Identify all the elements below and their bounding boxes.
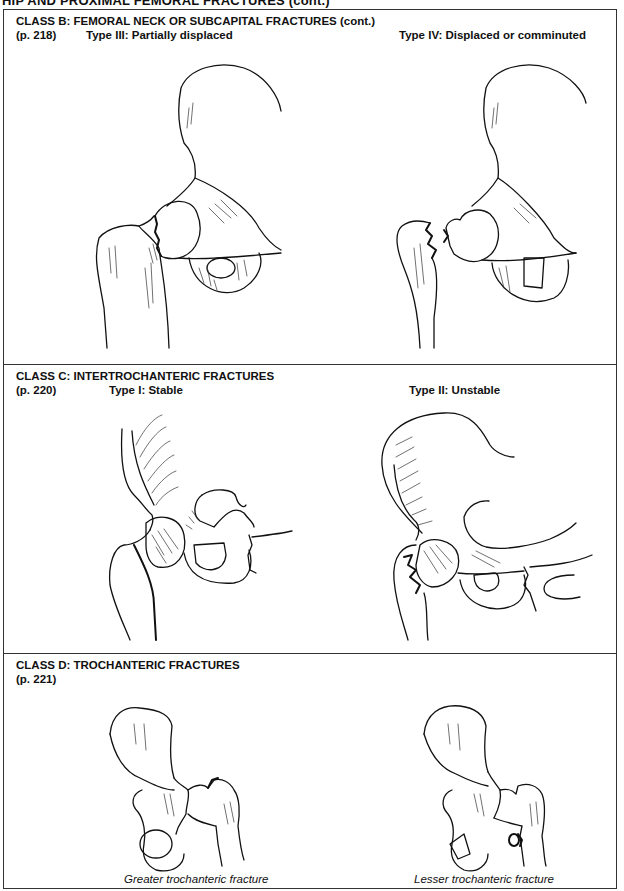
lesser-trochanter-fragment [509, 834, 519, 846]
hip-lesser-trochanteric-fracture-illustration [404, 694, 604, 874]
class-title: CLASS C: INTERTROCHANTERIC FRACTURES [16, 370, 274, 382]
figure-label: Type II: Unstable [409, 384, 500, 396]
obturator-foramen [474, 573, 499, 591]
ilium-outline [382, 413, 514, 533]
fracture-line [426, 223, 436, 258]
class-title: CLASS B: FEMORAL NECK OR SUBCAPITAL FRAC… [16, 15, 375, 27]
fracture-line [155, 216, 161, 256]
ilium-outline [110, 708, 174, 778]
figure-caption: Greater trochanteric fracture [124, 873, 268, 885]
femur-outline [110, 530, 150, 640]
figure-label: Type IV: Displaced or comminuted [399, 29, 586, 41]
pelvic-ring [184, 550, 251, 583]
running-head: HIP AND PROXIMAL FEMORAL FRACTURES (cont… [2, 0, 330, 8]
femoral-head [446, 210, 498, 262]
obturator-foramen [524, 258, 544, 288]
figure-frame: CLASS B: FEMORAL NECK OR SUBCAPITAL FRAC… [3, 9, 617, 889]
obturator-foramen [207, 258, 235, 278]
panel-class-c: CLASS C: INTERTROCHANTERIC FRACTURES (p.… [4, 364, 616, 653]
page-reference: (p. 220) [16, 384, 56, 396]
obturator-foramen [140, 830, 172, 858]
page-reference: (p. 218) [16, 29, 56, 41]
figure-label: Type III: Partially displaced [86, 29, 233, 41]
panel-class-d: CLASS D: TROCHANTERIC FRACTURES (p. 221) [4, 653, 616, 889]
fracture-line [208, 778, 218, 788]
ilium-outline [472, 65, 586, 206]
femoral-head [155, 201, 200, 258]
figure-caption: Lesser trochanteric fracture [414, 873, 554, 885]
class-title: CLASS D: TROCHANTERIC FRACTURES [16, 659, 240, 671]
hip-greater-trochanteric-fracture-illustration [104, 694, 304, 874]
hip-intertrochanteric-stable-illustration [84, 405, 314, 645]
hip-femoral-neck-partially-displaced-illustration [49, 48, 279, 358]
femur-outline [394, 545, 416, 640]
ilium-outline [167, 65, 281, 206]
panel-class-b: CLASS B: FEMORAL NECK OR SUBCAPITAL FRAC… [4, 10, 616, 364]
hip-femoral-neck-displaced-comminuted-illustration [354, 48, 584, 358]
pelvic-ring [492, 260, 568, 301]
ilium-outline [424, 706, 488, 772]
fracture-line [134, 545, 156, 640]
obturator-foramen [194, 543, 226, 570]
femur-outline [397, 221, 430, 348]
page-reference: (p. 221) [16, 673, 56, 685]
hip-intertrochanteric-unstable-illustration [364, 405, 604, 645]
figure-label: Type I: Stable [109, 384, 183, 396]
